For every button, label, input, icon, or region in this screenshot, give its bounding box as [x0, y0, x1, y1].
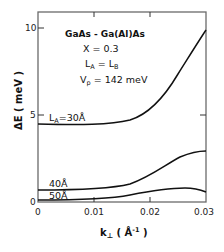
- y-axis-label: ΔE ( meV ): [13, 71, 24, 130]
- annotation-vp: Vp = 142 meV: [80, 74, 148, 87]
- y-tick-label-0: 0: [30, 197, 36, 207]
- curve-label-50A: 50Å: [49, 190, 68, 201]
- plot-frame: [38, 12, 206, 202]
- x-tick-label-0: 0: [35, 207, 41, 217]
- curve-label-30A: LA=30Å: [49, 112, 86, 125]
- chart: 10 5 0 0 0.01 0.02 0.03 LA=30Å 40Å 50Å G…: [0, 0, 224, 252]
- x-tick-label-0.02: 0.02: [140, 207, 160, 217]
- x-tick-label-0.01: 0.01: [84, 207, 104, 217]
- curve-label-40A: 40Å: [49, 178, 68, 189]
- annotation-la-lb: LA = LB: [85, 58, 119, 71]
- annotation-x: X = 0.3: [83, 43, 119, 54]
- x-tick-label-0.03: 0.03: [194, 207, 214, 217]
- annotation-system: GaAs - Ga(Al)As: [65, 29, 145, 39]
- x-axis-label: k⊥ ( Å-1 ): [100, 226, 148, 240]
- y-tick-label-5: 5: [30, 110, 36, 120]
- y-tick-label-10: 10: [25, 23, 37, 33]
